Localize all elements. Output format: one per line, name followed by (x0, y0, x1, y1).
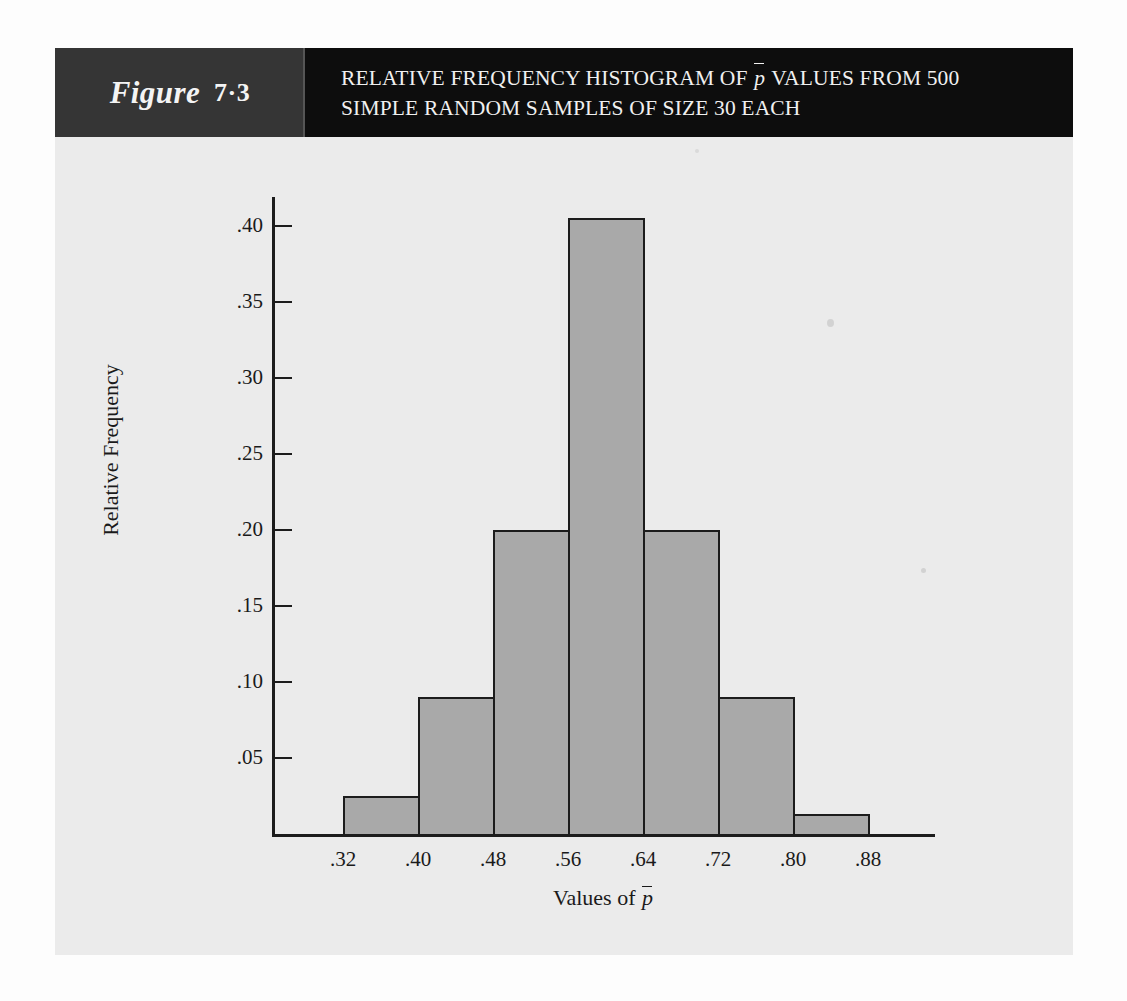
figure-number: 7·3 (214, 78, 250, 108)
y-tick-mark (275, 681, 292, 684)
scan-speck (695, 149, 699, 153)
y-tick-label: .15 (207, 595, 263, 616)
histogram-bar (793, 814, 870, 836)
y-tick-label: .20 (207, 519, 263, 540)
figure-page: Figure 7·3 RELATIVE FREQUENCY HISTOGRAM … (0, 0, 1127, 1001)
y-tick-label: .25 (207, 443, 263, 464)
figure-label-zone: Figure 7·3 (55, 48, 305, 137)
histogram-bar (418, 697, 495, 836)
figure-header-band: Figure 7·3 RELATIVE FREQUENCY HISTOGRAM … (55, 48, 1073, 137)
p-bar-symbol-title: p (753, 63, 766, 93)
histogram-bar (343, 796, 420, 836)
y-tick-label: .40 (207, 215, 263, 236)
y-tick-mark (275, 453, 292, 456)
x-tick-label: .72 (688, 849, 748, 870)
scan-speck (827, 319, 834, 327)
histogram-bar (643, 530, 720, 836)
histogram-bar (718, 697, 795, 836)
x-tick-label: .80 (763, 849, 823, 870)
histogram-bar (568, 218, 645, 836)
figure-label-word: Figure (110, 75, 200, 111)
y-tick-label: .30 (207, 367, 263, 388)
p-bar-symbol-xlabel: p (641, 885, 654, 911)
y-tick-mark (275, 301, 292, 304)
figure-title-zone: RELATIVE FREQUENCY HISTOGRAM OF p VALUES… (307, 48, 1073, 137)
y-tick-mark (275, 529, 292, 532)
x-axis-title: Values of p (272, 885, 935, 911)
y-tick-mark (275, 225, 292, 228)
x-tick-label: .32 (313, 849, 373, 870)
scan-speck (921, 568, 926, 573)
y-tick-mark (275, 605, 292, 608)
histogram-bar (493, 530, 570, 836)
x-tick-label: .48 (463, 849, 523, 870)
histogram-plot: Relative Frequency Values of p .05.10.15… (55, 137, 1073, 955)
y-tick-label: .35 (207, 291, 263, 312)
x-tick-label: .40 (388, 849, 448, 870)
figure-title-line-2: SIMPLE RANDOM SAMPLES OF SIZE 30 EACH (341, 93, 1073, 123)
figure-title-line-1-after: VALUES FROM 500 (766, 66, 959, 90)
x-axis-title-text: Values of (553, 885, 641, 910)
y-axis-title: Relative Frequency (98, 330, 124, 570)
y-tick-mark (275, 377, 292, 380)
x-tick-label: .88 (838, 849, 898, 870)
y-tick-label: .10 (207, 671, 263, 692)
y-axis-line (272, 197, 275, 837)
figure-title-line-1-before: RELATIVE FREQUENCY HISTOGRAM OF (341, 66, 753, 90)
figure-panel: Relative Frequency Values of p .05.10.15… (55, 137, 1073, 955)
x-tick-label: .56 (538, 849, 598, 870)
x-tick-label: .64 (613, 849, 673, 870)
y-tick-label: .05 (207, 747, 263, 768)
figure-title-line-1: RELATIVE FREQUENCY HISTOGRAM OF p VALUES… (341, 63, 1073, 93)
y-tick-mark (275, 757, 292, 760)
